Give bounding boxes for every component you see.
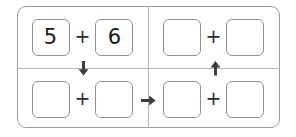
equation-bottom-right: + <box>163 81 265 118</box>
answer-box-top-right-second[interactable] <box>226 19 264 56</box>
quadrant-top-left: 5 + 6 <box>17 6 148 68</box>
answer-box-bottom-left-second[interactable] <box>95 81 133 118</box>
answer-box-bottom-left-first[interactable] <box>32 81 70 118</box>
answer-box-top-right-first[interactable] <box>163 19 201 56</box>
arrow-up-icon <box>210 61 221 76</box>
equation-top-left: 5 + 6 <box>32 19 134 56</box>
arrow-down-icon <box>78 61 89 76</box>
equation-bottom-left: + <box>32 81 134 118</box>
answer-box-bottom-right-first[interactable] <box>163 81 201 118</box>
plus-sign-top-left: + <box>75 27 91 48</box>
arrow-right-icon <box>141 95 156 106</box>
quadrant-bottom-right: + <box>148 68 279 130</box>
quadrant-bottom-left: + <box>17 68 148 130</box>
equation-top-right: + <box>163 19 265 56</box>
plus-sign-bottom-right: + <box>206 89 222 110</box>
plus-sign-top-right: + <box>206 27 222 48</box>
fact-family-worksheet: 5 + 6 + + + <box>0 0 296 137</box>
answer-box-top-left-first[interactable]: 5 <box>32 19 70 56</box>
answer-box-top-left-second[interactable]: 6 <box>95 19 133 56</box>
quadrant-top-right: + <box>148 6 279 68</box>
answer-box-bottom-right-second[interactable] <box>226 81 264 118</box>
plus-sign-bottom-left: + <box>75 89 91 110</box>
